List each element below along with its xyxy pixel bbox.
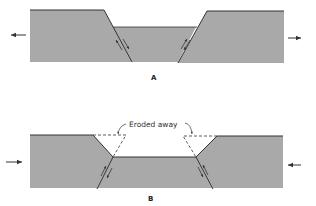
left-block-a (30, 10, 132, 62)
leader-left (118, 124, 126, 134)
panel-a: A (11, 10, 301, 82)
middle-block-b (97, 157, 213, 188)
leader-right (185, 123, 192, 134)
right-block-a (178, 11, 284, 63)
panel-label-b: B (148, 195, 153, 203)
eroded-away-label: Eroded away (129, 120, 178, 129)
fault-diagram: A Eroded away B (0, 0, 316, 206)
panel-label-a: A (151, 74, 157, 82)
panel-b: Eroded away B (6, 120, 301, 203)
